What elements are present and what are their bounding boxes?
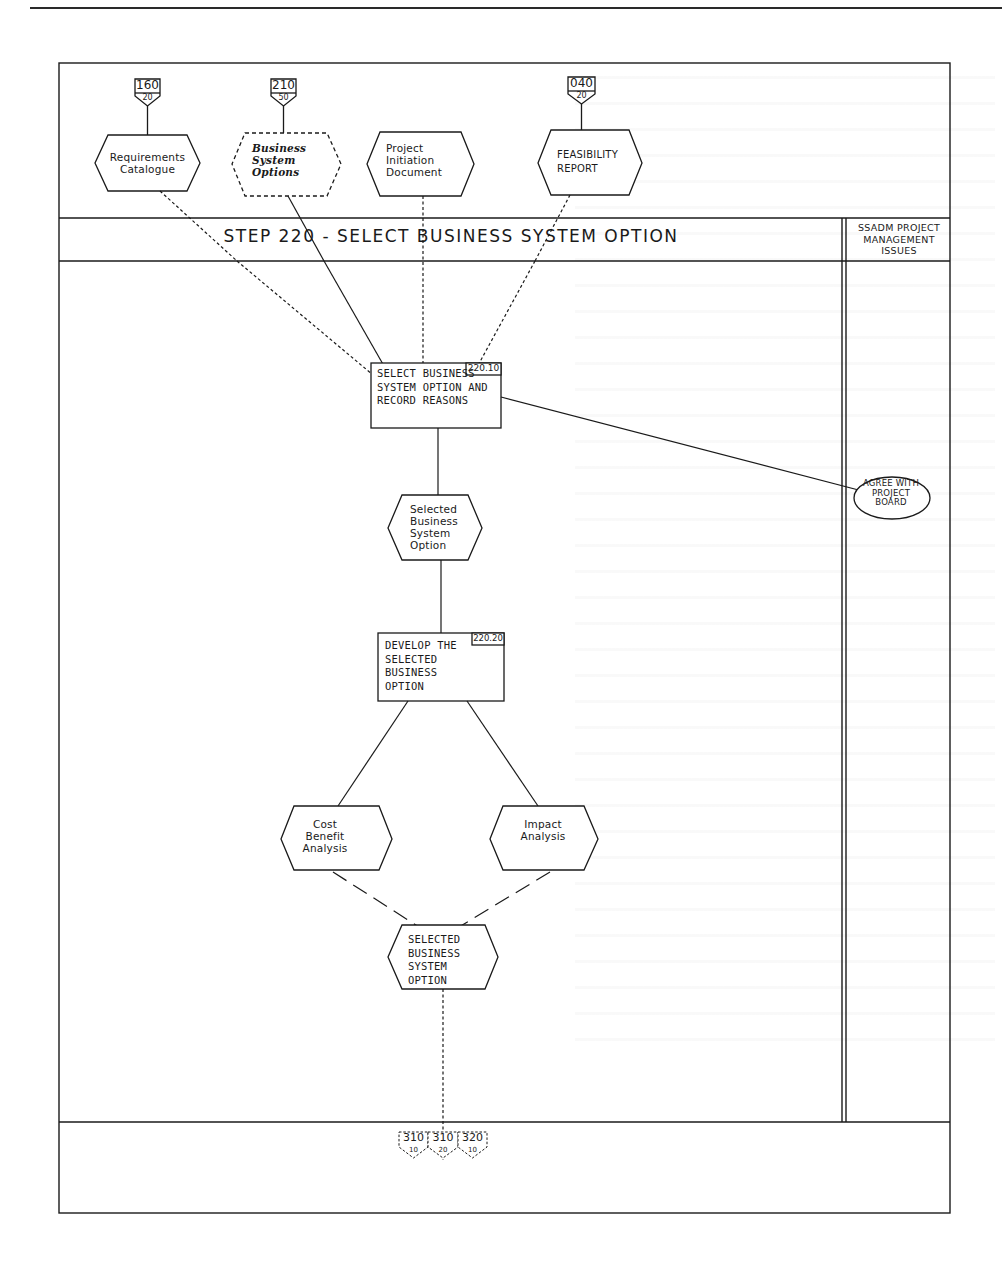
- label-agree-with-project-board: AGREE WITH PROJECT BOARD: [858, 479, 924, 508]
- output-ref-bottom-3: 10: [460, 1146, 486, 1154]
- ref-top-business-system-options: 210: [271, 78, 297, 92]
- ref-bottom-feasibility-report: 20: [569, 91, 595, 100]
- process-label-220-10: SELECT BUSINESS SYSTEM OPTION AND RECORD…: [377, 367, 495, 408]
- output-ref-bottom-1: 10: [401, 1146, 427, 1154]
- process-label-220-20: DEVELOP THE SELECTED BUSINESS OPTION: [385, 639, 471, 693]
- label-feasibility-report: FEASIBILITY REPORT: [557, 148, 629, 175]
- label-requirements-catalogue: Requirements Catalogue: [108, 151, 187, 175]
- label-project-initiation-document: Project Initiation Document: [386, 142, 450, 178]
- process-id-220-20: 220.20: [472, 633, 504, 643]
- label-impact-analysis: Impact Analysis: [513, 818, 573, 842]
- output-ref-top-2: 310: [430, 1131, 456, 1144]
- label-selected-bso-intermediate: Selected Business System Option: [410, 503, 462, 551]
- ref-top-feasibility-report: 040: [569, 76, 595, 90]
- output-ref-top-3: 320: [460, 1131, 486, 1144]
- ref-bottom-business-system-options: 50: [271, 93, 297, 102]
- step-title: STEP 220 - SELECT BUSINESS SYSTEM OPTION: [60, 226, 842, 246]
- label-selected-bso-final: SELECTED BUSINESS SYSTEM OPTION: [408, 933, 472, 987]
- label-business-system-options: Business System Options: [252, 142, 310, 178]
- ref-bottom-requirements-catalogue: 20: [135, 93, 161, 102]
- output-ref-bottom-2: 20: [430, 1146, 456, 1154]
- output-ref-top-1: 310: [401, 1131, 427, 1144]
- label-cost-benefit-analysis: Cost Benefit Analysis: [300, 818, 350, 854]
- ref-top-requirements-catalogue: 160: [135, 78, 161, 92]
- management-column-title: SSADM PROJECT MANAGEMENT ISSUES: [848, 222, 950, 257]
